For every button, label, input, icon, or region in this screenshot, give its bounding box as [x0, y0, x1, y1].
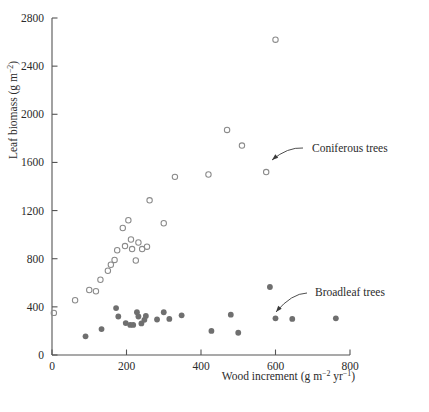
x-axis-title: Wood increment (g m−2 yr−1): [222, 369, 355, 383]
data-points-group: [51, 37, 339, 339]
data-point-coniferous: [72, 298, 77, 303]
data-point-broadleaf: [267, 284, 273, 290]
data-point-broadleaf: [143, 313, 149, 319]
y-axis-title-main: Leaf biomass (g m: [7, 73, 20, 159]
data-point-coniferous: [133, 258, 138, 263]
data-point-coniferous: [239, 143, 244, 148]
data-point-broadleaf: [83, 333, 89, 339]
data-point-broadleaf: [99, 326, 105, 332]
annotation-label-broadleaf: Broadleaf trees: [315, 286, 385, 298]
data-point-broadleaf: [289, 316, 295, 322]
data-point-broadleaf: [115, 314, 121, 320]
y-tick-label: 1600: [21, 156, 44, 168]
data-point-coniferous: [122, 243, 127, 248]
data-point-broadleaf: [161, 309, 167, 315]
scatter-plot-figure: 0400800120016002000240028000200400600800…: [0, 0, 429, 412]
axes-group: 0400800120016002000240028000200400600800: [21, 12, 359, 372]
y-tick-label: 2000: [21, 108, 44, 120]
data-point-coniferous: [224, 127, 229, 132]
data-point-coniferous: [273, 37, 278, 42]
data-point-broadleaf: [228, 312, 234, 318]
annotation-label-coniferous: Coniferous trees: [312, 142, 388, 154]
data-point-coniferous: [87, 287, 92, 292]
x-tick-label: 400: [192, 360, 210, 372]
y-axis-title-sup1: −2: [6, 65, 15, 73]
data-point-broadleaf: [273, 315, 279, 321]
y-tick-label: 2400: [21, 60, 44, 72]
annotations-group: Coniferous treesBroadleaf trees: [272, 142, 388, 312]
data-point-coniferous: [147, 198, 152, 203]
data-point-coniferous: [126, 218, 131, 223]
x-axis-title-sup2: −1: [343, 369, 351, 378]
y-tick-label: 1200: [21, 205, 44, 217]
data-point-coniferous: [263, 169, 268, 174]
y-axis-title-tail: ): [7, 61, 20, 65]
data-point-coniferous: [161, 221, 166, 226]
data-point-broadleaf: [235, 330, 241, 336]
data-point-coniferous: [206, 172, 211, 177]
data-point-broadleaf: [209, 328, 215, 334]
data-point-broadleaf: [154, 317, 160, 323]
x-tick-label: 0: [49, 360, 55, 372]
data-point-coniferous: [129, 246, 134, 251]
data-point-coniferous: [128, 237, 133, 242]
data-point-broadleaf: [179, 312, 185, 318]
data-point-broadleaf: [166, 316, 172, 322]
y-tick-label: 400: [27, 301, 45, 313]
data-point-broadleaf: [130, 322, 136, 328]
y-tick-label: 2800: [21, 12, 44, 24]
x-axis-title-main: Wood increment (g m: [222, 370, 322, 383]
data-point-broadleaf: [333, 315, 339, 321]
data-point-coniferous: [144, 244, 149, 249]
y-tick-label: 800: [27, 253, 45, 265]
data-point-coniferous: [114, 248, 119, 253]
x-axis-title-sup1: −2: [322, 369, 330, 378]
x-tick-label: 200: [118, 360, 136, 372]
data-point-coniferous: [105, 268, 110, 273]
data-point-coniferous: [98, 277, 103, 282]
plot-svg: 0400800120016002000240028000200400600800…: [0, 0, 429, 412]
data-point-coniferous: [136, 240, 141, 245]
data-point-coniferous: [112, 257, 117, 262]
axis-titles-group: Wood increment (g m−2 yr−1)Leaf biomass …: [6, 61, 355, 383]
data-point-coniferous: [108, 262, 113, 267]
y-tick-label: 0: [38, 349, 44, 361]
x-axis-title-tail: ): [351, 370, 355, 383]
x-axis-title-mid: yr: [330, 370, 343, 383]
data-point-broadleaf: [113, 305, 119, 311]
data-point-coniferous: [93, 289, 98, 294]
data-point-coniferous: [120, 225, 125, 230]
annotation-arrowhead-coniferous: [272, 154, 278, 160]
y-axis-title: Leaf biomass (g m−2): [6, 61, 20, 159]
data-point-coniferous: [172, 174, 177, 179]
data-point-broadleaf: [136, 314, 142, 320]
